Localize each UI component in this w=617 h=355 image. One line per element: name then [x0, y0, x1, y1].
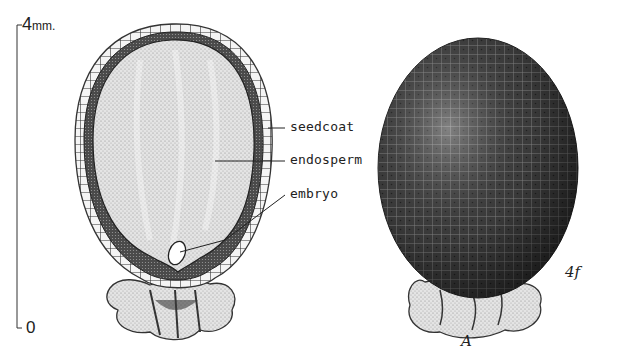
seed-external-view [378, 38, 578, 338]
label-seedcoat: seedcoat [290, 119, 354, 134]
scale-bar [17, 25, 22, 328]
artist-initials: 4f [565, 263, 580, 281]
label-embryo: embryo [290, 186, 338, 201]
scale-unit: mm. [32, 19, 55, 33]
seed-section-view [75, 24, 272, 340]
scale-max-label: 4mm. [22, 14, 55, 35]
view-letter: A [461, 332, 472, 350]
seed-illustration [0, 0, 617, 355]
scale-min-label: 0 [26, 318, 35, 338]
scale-max-value: 4 [22, 14, 32, 34]
label-endosperm: endosperm [290, 152, 362, 167]
